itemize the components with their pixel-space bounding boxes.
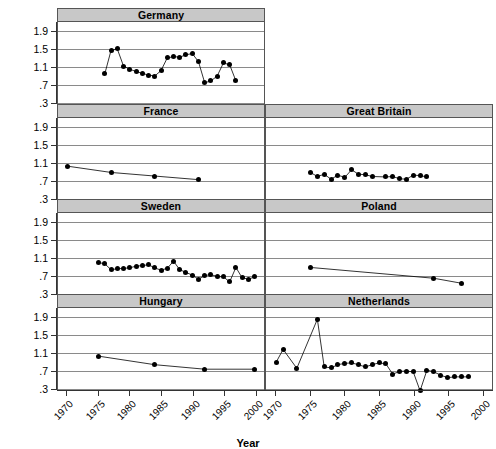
y-tick-label: .7 (39, 366, 48, 377)
y-tick-label: .7 (39, 271, 48, 282)
y-tick-label: .3 (39, 194, 48, 205)
plot-area (57, 213, 265, 295)
y-tick-label: 1.1 (33, 62, 48, 73)
data-point (134, 69, 139, 74)
panel-france: France (57, 104, 265, 200)
data-point (322, 172, 327, 177)
data-point (308, 170, 313, 175)
panel-great-britain: Great Britain (265, 104, 493, 200)
panel-strip-poland: Poland (265, 199, 493, 213)
panel-strip-netherlands: Netherlands (265, 294, 493, 308)
y-tick-label: 1.1 (33, 348, 48, 359)
panel-title: Sweden (141, 201, 181, 212)
y-tick-label: .3 (39, 384, 48, 395)
x-tick (483, 390, 484, 396)
panel-sweden: Sweden (57, 199, 265, 295)
data-point (240, 275, 245, 280)
data-point (159, 268, 164, 273)
y-tick (51, 181, 57, 182)
y-axis-line (56, 308, 57, 389)
panel-strip-france: France (57, 104, 265, 118)
y-tick (51, 353, 57, 354)
x-tick (256, 390, 257, 396)
y-tick-label: .7 (39, 80, 48, 91)
data-point (397, 369, 402, 374)
y-axis-line (56, 22, 57, 103)
data-point (109, 48, 114, 53)
data-point (159, 68, 164, 73)
y-tick-label: 1.5 (33, 140, 48, 151)
y-tick (51, 258, 57, 259)
data-point (356, 172, 361, 177)
data-point (152, 174, 157, 179)
y-tick (51, 240, 57, 241)
data-point (308, 265, 313, 270)
data-point (466, 374, 471, 379)
data-point (96, 354, 101, 359)
panel-strip-great-britain: Great Britain (265, 104, 493, 118)
panel-germany: Germany (57, 8, 265, 104)
panel-hungary: Hungary (57, 294, 265, 390)
y-tick (51, 127, 57, 128)
data-point (65, 164, 70, 169)
y-axis-line (56, 118, 57, 199)
panel-title: Hungary (139, 296, 182, 307)
y-tick (51, 145, 57, 146)
plot-area (57, 308, 265, 390)
data-point (146, 73, 151, 78)
y-tick (51, 294, 57, 295)
data-point (140, 71, 145, 76)
x-tick (224, 390, 225, 396)
data-point (134, 264, 139, 269)
x-tick-label: 1995 (427, 399, 457, 429)
x-tick (66, 390, 67, 396)
y-tick (51, 67, 57, 68)
panel-strip-germany: Germany (57, 8, 265, 22)
x-tick (414, 390, 415, 396)
y-tick-label: 1.9 (33, 217, 48, 228)
y-tick (51, 222, 57, 223)
x-tick-label: 2000 (462, 399, 492, 429)
data-point (177, 55, 182, 60)
panel-strip-sweden: Sweden (57, 199, 265, 213)
data-point (411, 173, 416, 178)
data-point (171, 259, 176, 264)
x-tick-label: 1975 (77, 399, 107, 429)
x-tick-label: 1995 (203, 399, 233, 429)
data-point (329, 177, 334, 182)
plot-area (265, 213, 493, 295)
y-tick-label: 1.1 (33, 158, 48, 169)
y-tick-label: .3 (39, 98, 48, 109)
data-point (109, 267, 114, 272)
panel-netherlands: Netherlands (265, 294, 493, 390)
x-tick (98, 390, 99, 396)
data-point (215, 274, 220, 279)
x-tick-label: 1985 (140, 399, 170, 429)
x-tick (310, 390, 311, 396)
data-point (109, 170, 114, 175)
y-tick (51, 317, 57, 318)
y-tick-label: 1.9 (33, 26, 48, 37)
data-point (190, 273, 195, 278)
panel-title: France (143, 106, 178, 117)
panel-title: Netherlands (348, 296, 410, 307)
data-point (404, 177, 409, 182)
y-tick (51, 103, 57, 104)
plot-area (57, 118, 265, 200)
y-tick-label: 1.9 (33, 122, 48, 133)
y-tick (51, 199, 57, 200)
data-point (196, 277, 201, 282)
y-tick-label: 1.5 (33, 44, 48, 55)
data-point (252, 367, 257, 372)
data-point (363, 172, 368, 177)
y-tick-label: 1.5 (33, 235, 48, 246)
data-point (438, 373, 443, 378)
data-point (140, 263, 145, 268)
x-tick-label: 1975 (289, 399, 319, 429)
series-france (58, 118, 264, 199)
data-point (246, 277, 251, 282)
y-axis-line (56, 213, 57, 294)
data-point (459, 281, 464, 286)
y-tick-label: 1.9 (33, 312, 48, 323)
